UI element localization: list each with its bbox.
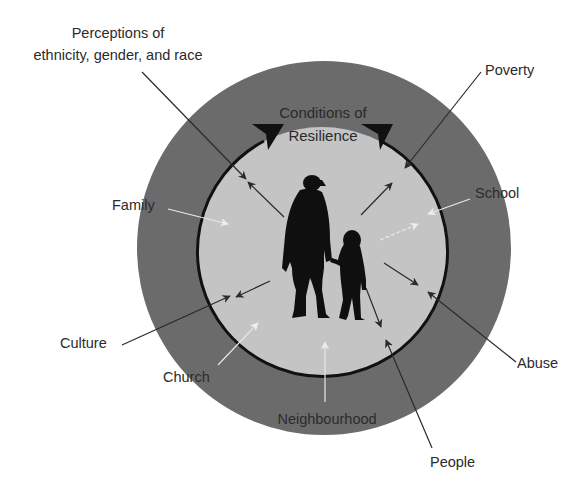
label-poverty: Poverty — [485, 62, 535, 78]
diagram-title-line1: Conditions of — [279, 104, 367, 121]
label-culture: Culture — [60, 335, 107, 351]
label-perceptions-line2: ethnicity, gender, and race — [33, 47, 202, 63]
diagram-title-line2: Resilience — [288, 127, 357, 144]
label-church: Church — [163, 369, 210, 385]
conditions-of-resilience-diagram: Conditions of Resilience Perceptions of … — [0, 0, 581, 485]
label-school: School — [475, 185, 519, 201]
label-neighbourhood: Neighbourhood — [277, 411, 376, 427]
label-abuse: Abuse — [517, 355, 558, 371]
label-family: Family — [112, 197, 155, 213]
label-people: People — [430, 454, 475, 470]
label-perceptions-line1: Perceptions of — [72, 25, 166, 41]
